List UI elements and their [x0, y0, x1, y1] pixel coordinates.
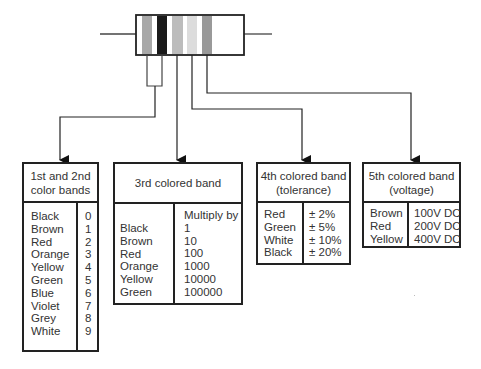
- table-cell: Black: [31, 210, 69, 223]
- table-header: 4th colored band (tolerance): [258, 164, 349, 203]
- table-cell: White: [31, 325, 69, 338]
- table-cell: 7: [85, 300, 91, 313]
- table-cell: Orange: [31, 248, 69, 261]
- band-4: [187, 16, 197, 54]
- table-cell: Red: [264, 208, 296, 221]
- table-cell: Red: [120, 248, 158, 261]
- table-cell: 4: [85, 261, 91, 274]
- table-cell: Green: [264, 221, 296, 234]
- fifth-band-table: 5th colored band (voltage) BrownRedYello…: [362, 162, 461, 248]
- table-cell: ± 5%: [309, 221, 342, 234]
- table-cell: 200V DC: [414, 220, 461, 233]
- table-cell: 400V DC: [414, 233, 461, 246]
- column-divider: [173, 202, 175, 303]
- table-cell: 0: [85, 210, 91, 223]
- table-cell: 1: [184, 222, 238, 235]
- value-column: 0123456789: [85, 210, 91, 350]
- table-cell: Orange: [120, 260, 158, 273]
- table-cell: 3: [85, 248, 91, 261]
- value-column: Multiply by 110100100010000100000: [184, 209, 238, 303]
- table-cell: Brown: [31, 223, 69, 236]
- color-column: BlackBrownRedOrangeYellowGreen: [120, 222, 158, 303]
- table-header: 3rd colored band: [115, 164, 241, 204]
- value-column: 100V DC200V DC400V DC: [414, 207, 461, 246]
- fourth-band-table: 4th colored band (tolerance) RedGreenWhi…: [256, 162, 351, 265]
- table-header: 5th colored band (voltage): [364, 164, 459, 203]
- table-cell: Black: [120, 222, 158, 235]
- table-cell: Brown: [120, 235, 158, 248]
- table-cell: Yellow: [31, 261, 69, 274]
- table-cell: Black: [264, 246, 296, 259]
- color-column: BlackBrownRedOrangeYellowGreenBlueViolet…: [31, 210, 69, 350]
- table-cell: 100V DC: [414, 207, 461, 220]
- table-cell: Brown: [370, 207, 403, 220]
- table-cell: Blue: [31, 287, 69, 300]
- table-cell: 8: [85, 312, 91, 325]
- table-cell: 2: [85, 236, 91, 249]
- table-cell: 1000: [184, 260, 238, 273]
- table-cell: Red: [31, 236, 69, 249]
- table-cell: Violet: [31, 300, 69, 313]
- table-cell: Yellow: [370, 233, 403, 246]
- column-divider: [302, 201, 304, 263]
- color-column: RedGreenWhiteBlack: [264, 208, 296, 263]
- table-cell: 6: [85, 287, 91, 300]
- value-column: ± 2%± 5%± 10%± 20%: [309, 208, 342, 263]
- table-cell: ± 20%: [309, 246, 342, 259]
- table-cell: 100: [184, 247, 238, 260]
- table-cell: ± 10%: [309, 234, 342, 247]
- table-header: 1st and 2nd color bands: [24, 164, 97, 203]
- first-second-band-table: 1st and 2nd color bands BlackBrownRedOra…: [22, 162, 99, 352]
- band-5: [202, 16, 212, 54]
- table-cell: Green: [120, 286, 158, 299]
- column-divider: [407, 201, 409, 246]
- table-cell: ± 2%: [309, 208, 342, 221]
- table-cell: 5: [85, 274, 91, 287]
- table-cell: 100000: [184, 286, 238, 299]
- column-divider: [76, 201, 78, 350]
- color-column: BrownRedYellow: [370, 207, 403, 246]
- table-cell: 9: [85, 325, 91, 338]
- table-cell: Red: [370, 220, 403, 233]
- table-cell: Grey: [31, 312, 69, 325]
- table-cell: 1: [85, 223, 91, 236]
- table-cell: Yellow: [120, 273, 158, 286]
- table-cell: 10: [184, 235, 238, 248]
- table-cell: 10000: [184, 273, 238, 286]
- table-cell: Green: [31, 274, 69, 287]
- band-2: [157, 16, 167, 54]
- table-cell: White: [264, 234, 296, 247]
- third-band-table: 3rd colored band BlackBrownRedOrangeYell…: [113, 162, 243, 305]
- band-1: [142, 16, 152, 54]
- band-3: [172, 16, 183, 54]
